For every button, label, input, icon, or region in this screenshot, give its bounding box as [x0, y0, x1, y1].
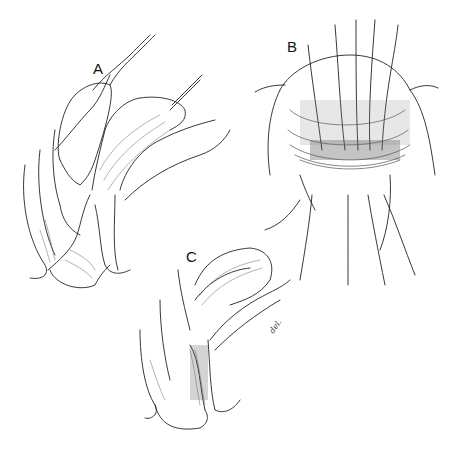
panel-a-drawing	[24, 35, 230, 288]
panel-c-label: C	[186, 248, 197, 265]
panel-b-drawing	[255, 20, 438, 285]
panel-a-label: A	[93, 60, 103, 77]
illustration-canvas	[0, 0, 454, 459]
panel-c-drawing	[140, 248, 290, 429]
panel-b-label: B	[287, 38, 297, 55]
